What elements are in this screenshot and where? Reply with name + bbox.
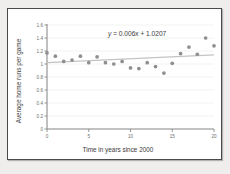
data-point: [70, 58, 74, 62]
data-point: [104, 61, 108, 65]
data-point: [129, 66, 133, 70]
data-point: [79, 54, 83, 58]
y-axis-ticks: 00.20.40.60.811.21.41.6: [37, 23, 47, 132]
y-tick-label: 0.2: [37, 114, 44, 119]
data-point: [187, 45, 191, 49]
data-point: [162, 71, 166, 75]
y-tick-label: 0.4: [37, 101, 44, 106]
screenshot-canvas: 00.20.40.60.811.21.41.6 05101520 y = 0.0…: [0, 0, 230, 174]
x-tick-label: 5: [87, 134, 90, 139]
y-tick-label: 1.6: [37, 23, 44, 28]
data-point: [154, 65, 158, 69]
x-tick-label: 15: [170, 134, 176, 139]
y-tick-label: 0: [40, 127, 43, 132]
y-tick-label: 1: [40, 62, 43, 67]
data-point: [95, 55, 99, 59]
data-point: [204, 36, 208, 40]
x-axis-title: Time in years since 2000: [83, 146, 154, 154]
y-tick-label: 0.6: [37, 88, 44, 93]
data-point: [54, 54, 58, 58]
data-point: [120, 60, 124, 64]
x-tick-label: 0: [46, 134, 49, 139]
data-point: [170, 62, 174, 66]
data-point: [137, 67, 141, 71]
chart-frame: 00.20.40.60.811.21.41.6 05101520 y = 0.0…: [7, 8, 222, 160]
data-point: [212, 44, 216, 48]
x-tick-label: 20: [211, 134, 217, 139]
grid-lines: [47, 25, 214, 129]
data-point: [45, 51, 49, 55]
y-axis-title: Average home runs per game: [15, 38, 23, 123]
trendline-equation-label: y = 0.006x + 1.0207: [107, 30, 167, 38]
data-point: [62, 60, 66, 64]
data-point: [195, 52, 199, 56]
data-point: [179, 52, 183, 56]
y-tick-label: 0.8: [37, 75, 44, 80]
data-point: [87, 61, 91, 65]
x-axis-ticks: 05101520: [46, 129, 217, 139]
y-tick-label: 1.2: [37, 49, 44, 54]
x-tick-label: 10: [128, 134, 134, 139]
y-tick-label: 1.4: [37, 36, 44, 41]
data-point: [112, 62, 116, 66]
data-point: [145, 61, 149, 65]
scatter-chart: 00.20.40.60.811.21.41.6 05101520 y = 0.0…: [8, 9, 221, 159]
